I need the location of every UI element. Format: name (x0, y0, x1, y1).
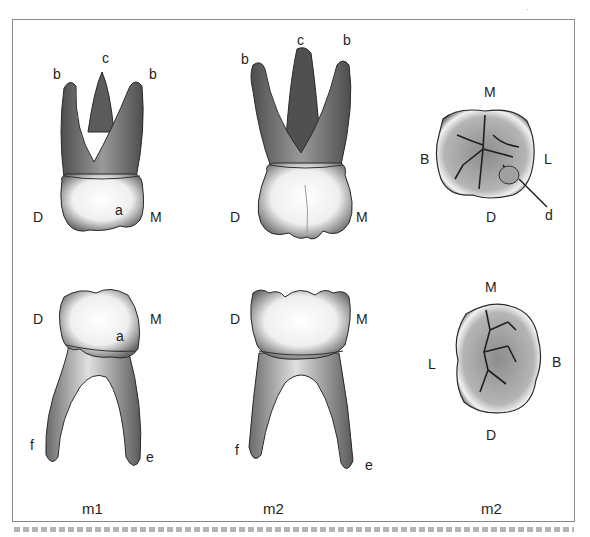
label-distal: D (230, 312, 240, 326)
label-b: b (343, 33, 351, 47)
label-mesial: M (150, 210, 162, 224)
caption-m2: m2 (263, 501, 284, 516)
label-buccal: B (420, 152, 429, 166)
label-a: a (116, 329, 124, 343)
label-mesial: M (150, 312, 162, 326)
label-b: b (149, 67, 157, 81)
label-d: d (545, 208, 553, 222)
caption-m1: m1 (82, 501, 103, 516)
label-c: c (102, 51, 109, 65)
label-f: f (30, 438, 34, 452)
label-distal: D (486, 428, 496, 442)
label-e: e (365, 458, 373, 472)
caption-m2-occlusal: m2 (481, 501, 502, 516)
label-f: f (235, 443, 239, 457)
label-distal: D (33, 312, 43, 326)
label-distal: D (230, 210, 240, 224)
label-lingual: L (544, 152, 552, 166)
label-mesial: M (485, 280, 497, 294)
label-lingual: L (428, 357, 436, 371)
tooth-m1-upper-illustration (50, 70, 160, 250)
label-mesial: M (356, 210, 368, 224)
figure-caption-text (14, 527, 574, 532)
speck (527, 9, 528, 10)
tooth-m2-upper-illustration (245, 45, 360, 245)
label-mesial: M (484, 85, 496, 99)
label-distal: D (33, 210, 43, 224)
tooth-m2-lower-illustration (245, 287, 355, 472)
label-e: e (146, 450, 154, 464)
label-c: c (297, 33, 304, 47)
label-b: b (241, 52, 249, 66)
label-a: a (115, 203, 123, 217)
label-buccal: B (552, 355, 561, 369)
tooth-m2-occlusal-lower-illustration (450, 300, 545, 420)
tooth-m1-lower-illustration (40, 287, 150, 467)
label-mesial: M (356, 312, 368, 326)
label-distal: D (486, 210, 496, 224)
label-b: b (53, 67, 61, 81)
